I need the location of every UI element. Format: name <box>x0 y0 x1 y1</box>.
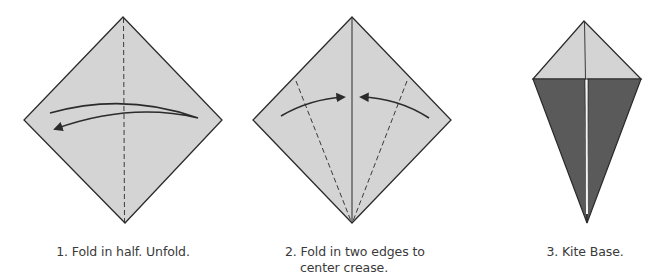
step-2-caption: 2. Fold in two edges to center crease. <box>285 244 425 276</box>
step-3-figure <box>533 21 641 223</box>
step-1-paper-square <box>24 17 222 223</box>
kite-top-flap <box>533 21 641 79</box>
step-2-caption-line-1: 2. Fold in two edges to <box>285 244 425 259</box>
step-1-figure <box>24 17 222 223</box>
step-1-caption: 1. Fold in half. Unfold. <box>50 244 196 260</box>
kite-center-gap <box>587 80 588 214</box>
kite-left-panel <box>533 79 587 223</box>
folding-diagram <box>0 0 672 277</box>
step-2-caption-line-2: center crease. <box>285 260 425 276</box>
kite-right-panel <box>587 79 641 223</box>
step-2-figure <box>253 17 451 223</box>
step-3-caption: 3. Kite Base. <box>540 244 630 260</box>
